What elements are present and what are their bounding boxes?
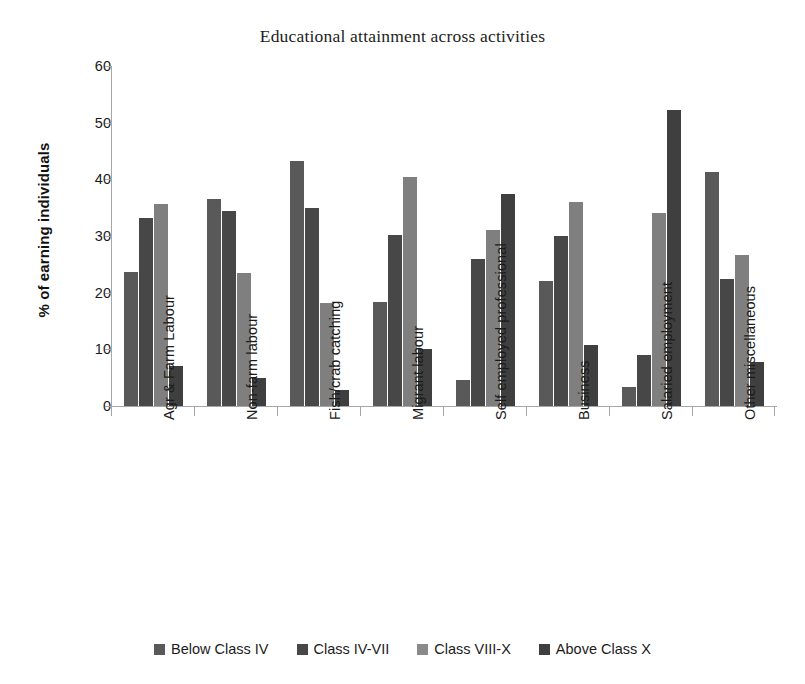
legend-swatch-icon (297, 644, 308, 655)
y-axis-title: % of earning individuals (35, 105, 57, 355)
legend-swatch-icon (539, 644, 550, 655)
chart-title: Educational attainment across activities (0, 26, 805, 47)
bar (222, 211, 237, 407)
bar (139, 218, 154, 406)
x-tick-label: Non-farm labour (244, 314, 262, 420)
x-tick-label: Other miscellaneous (742, 286, 760, 420)
legend-swatch-icon (154, 644, 165, 655)
bar (539, 281, 554, 406)
bar-group (693, 66, 776, 406)
bar (124, 272, 139, 406)
bar (207, 199, 222, 406)
x-tick-mark (443, 407, 444, 416)
bar-group (112, 66, 195, 406)
legend-item[interactable]: Above Class X (539, 641, 651, 657)
x-tick-label: Fish/crab catching (327, 301, 345, 420)
bar (622, 387, 637, 406)
chart-legend: Below Class IVClass IV-VIIClass VIII-XAb… (0, 641, 805, 657)
x-tick-mark (692, 407, 693, 416)
bar (637, 355, 652, 406)
bar (554, 236, 569, 406)
bar-group (527, 66, 610, 406)
legend-label: Above Class X (556, 641, 651, 657)
bar (456, 380, 471, 406)
x-tick-mark (277, 407, 278, 416)
x-tick-label: Self employed professional (493, 243, 511, 420)
x-axis-category-separators (111, 407, 777, 416)
bar (720, 279, 735, 407)
x-tick-mark (774, 407, 775, 416)
x-tick-mark (111, 407, 112, 416)
x-tick-label: Agr & Farm Labour (161, 295, 179, 420)
legend-item[interactable]: Class IV-VII (297, 641, 390, 657)
bar-group (444, 66, 527, 406)
x-tick-label: Salaried employment (659, 282, 677, 420)
x-tick-mark (609, 407, 610, 416)
bar-group (278, 66, 361, 406)
legend-label: Below Class IV (171, 641, 269, 657)
legend-item[interactable]: Class VIII-X (417, 641, 511, 657)
bar-group (195, 66, 278, 406)
x-tick-label: Migrant labour (410, 326, 428, 420)
legend-label: Class VIII-X (434, 641, 511, 657)
bar (388, 235, 403, 406)
x-tick-label: Business (576, 360, 594, 420)
chart-figure: Educational attainment across activities… (0, 0, 805, 684)
legend-swatch-icon (417, 644, 428, 655)
legend-label: Class IV-VII (314, 641, 390, 657)
bar (705, 172, 720, 406)
x-tick-mark (526, 407, 527, 416)
x-tick-mark (194, 407, 195, 416)
bar (373, 302, 388, 406)
legend-item[interactable]: Below Class IV (154, 641, 269, 657)
bar (305, 208, 320, 406)
x-tick-mark (360, 407, 361, 416)
bar-group (610, 66, 693, 406)
bar-group (361, 66, 444, 406)
bar (290, 161, 305, 406)
bar (471, 259, 486, 406)
